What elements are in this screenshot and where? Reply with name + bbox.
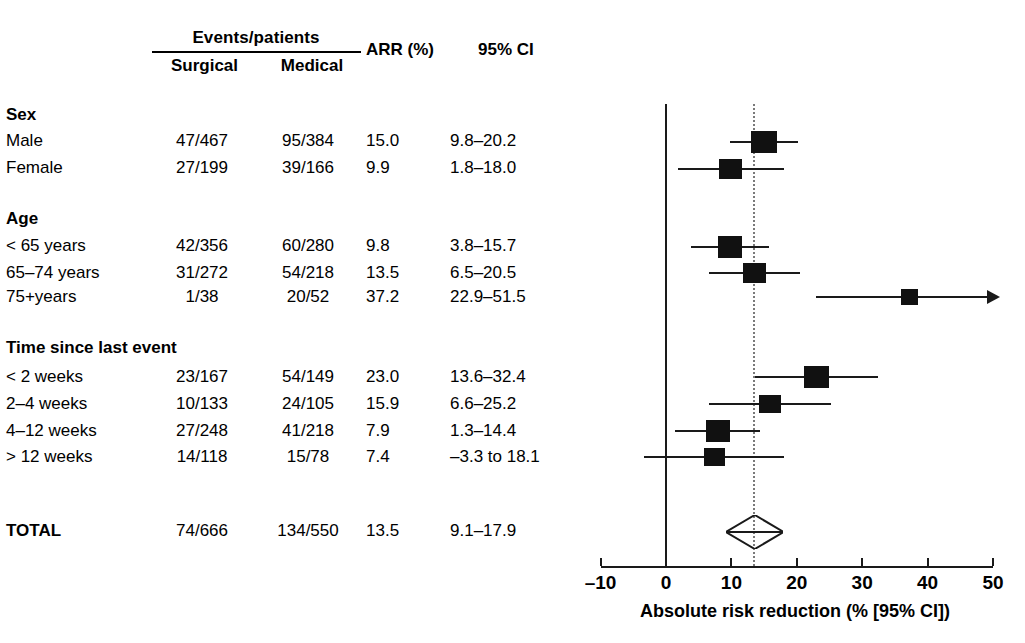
summary-diamond (726, 515, 784, 549)
ci-arrowhead-icon (987, 290, 1000, 304)
point-estimate-marker (719, 159, 742, 179)
x-axis-tick (600, 558, 602, 566)
forest-plot-figure: Events/patients Surgical Medical ARR (%)… (0, 0, 1025, 643)
point-estimate-marker (759, 395, 780, 414)
x-axis-tick (927, 558, 929, 566)
x-axis-tick (796, 558, 798, 566)
point-estimate-marker (718, 236, 742, 257)
x-axis-tick-label: 50 (963, 572, 1023, 594)
x-axis-tick-label: 30 (832, 572, 892, 594)
pooled-reference-line (753, 104, 755, 566)
point-estimate-marker (804, 366, 829, 388)
point-estimate-marker (751, 131, 777, 154)
x-axis-tick-label: 20 (767, 572, 827, 594)
x-axis-title: Absolute risk reduction (% [95% CI]) (565, 601, 1025, 622)
x-axis-tick (861, 558, 863, 566)
forest-plot-area: –1001020304050 Absolute risk reduction (… (0, 0, 1025, 643)
null-effect-line (665, 104, 667, 560)
x-axis-tick (665, 558, 667, 566)
x-axis-tick-label: –10 (571, 572, 631, 594)
point-estimate-marker (706, 420, 730, 441)
x-axis-tick-label: 0 (636, 572, 696, 594)
point-estimate-marker (901, 289, 918, 304)
point-estimate-marker (704, 448, 725, 466)
x-axis-tick (992, 558, 994, 566)
point-estimate-marker (743, 263, 767, 284)
x-axis-tick-label: 10 (701, 572, 761, 594)
x-axis-tick-label: 40 (898, 572, 958, 594)
x-axis-tick (730, 558, 732, 566)
x-axis-line (601, 566, 993, 568)
